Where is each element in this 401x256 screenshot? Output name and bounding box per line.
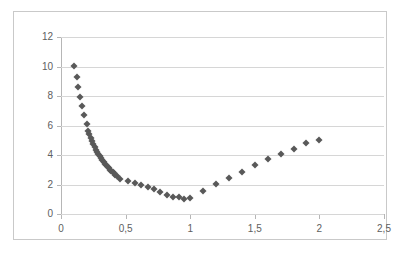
x-axis-tick-mark bbox=[255, 215, 256, 219]
data-point-marker bbox=[187, 195, 194, 202]
x-axis-labels: 00,511,522,5 bbox=[14, 224, 386, 240]
x-axis-tick-label: 2 bbox=[317, 224, 323, 234]
y-axis-tick-label: 12 bbox=[42, 32, 53, 42]
data-point-marker bbox=[138, 182, 145, 189]
data-point-marker bbox=[78, 103, 85, 110]
y-axis-tick-label: 8 bbox=[47, 91, 53, 101]
y-axis-tick-mark bbox=[57, 155, 61, 156]
x-axis-tick-label: 0 bbox=[58, 224, 64, 234]
x-axis-tick-label: 1 bbox=[187, 224, 193, 234]
data-point-marker bbox=[251, 162, 258, 169]
x-axis-tick-mark bbox=[319, 215, 320, 219]
gridline-y bbox=[61, 67, 384, 68]
y-axis-tick-label: 6 bbox=[47, 121, 53, 131]
data-point-marker bbox=[77, 93, 84, 100]
data-point-marker bbox=[200, 187, 207, 194]
screenshot-root: 024681012 00,511,522,5 bbox=[0, 0, 401, 256]
data-point-marker bbox=[81, 112, 88, 119]
y-axis-tick-mark bbox=[57, 214, 61, 215]
x-axis-tick-mark bbox=[61, 215, 62, 219]
x-axis-tick-label: 1,5 bbox=[248, 224, 262, 234]
x-axis-tick-label: 0,5 bbox=[119, 224, 133, 234]
data-point-marker bbox=[264, 156, 271, 163]
data-point-marker bbox=[238, 168, 245, 175]
gridline-y bbox=[61, 185, 384, 186]
x-axis-tick-mark bbox=[384, 215, 385, 219]
gridline-y bbox=[61, 126, 384, 127]
x-axis-tick-label: 2,5 bbox=[377, 224, 391, 234]
data-point-marker bbox=[212, 181, 219, 188]
gridline-y bbox=[61, 37, 384, 38]
gridline-y bbox=[61, 96, 384, 97]
gridline-y bbox=[61, 155, 384, 156]
y-axis-tick-label: 0 bbox=[47, 209, 53, 219]
y-axis-tick-mark bbox=[57, 96, 61, 97]
data-point-marker bbox=[316, 136, 323, 143]
data-point-marker bbox=[303, 140, 310, 147]
x-axis-tick-mark bbox=[190, 215, 191, 219]
y-axis-tick-mark bbox=[57, 126, 61, 127]
data-point-marker bbox=[74, 83, 81, 90]
y-axis-tick-label: 2 bbox=[47, 180, 53, 190]
chart-frame: 024681012 00,511,522,5 bbox=[13, 11, 387, 240]
y-axis-tick-label: 4 bbox=[47, 150, 53, 160]
gridline-y bbox=[61, 214, 384, 215]
x-axis-tick-mark bbox=[126, 215, 127, 219]
y-axis-tick-label: 10 bbox=[42, 62, 53, 72]
y-axis-tick-mark bbox=[57, 67, 61, 68]
data-point-marker bbox=[277, 151, 284, 158]
data-point-marker bbox=[290, 145, 297, 152]
y-axis-labels: 024681012 bbox=[14, 12, 53, 241]
y-axis-tick-mark bbox=[57, 37, 61, 38]
data-point-marker bbox=[225, 174, 232, 181]
plot-area bbox=[61, 37, 384, 214]
data-point-marker bbox=[70, 63, 77, 70]
data-point-marker bbox=[117, 175, 124, 182]
data-point-marker bbox=[73, 74, 80, 81]
y-axis-tick-mark bbox=[57, 185, 61, 186]
